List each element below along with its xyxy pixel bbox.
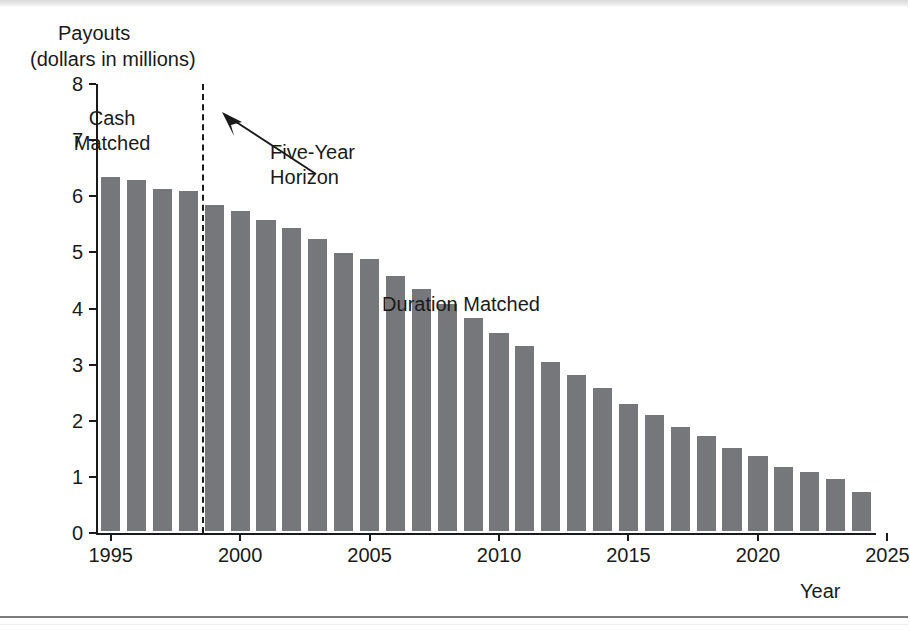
chart-title-line2: (dollars in millions) <box>30 46 196 72</box>
bar <box>748 456 767 531</box>
bar <box>697 436 716 531</box>
x-tick-mark <box>498 533 500 541</box>
bar <box>645 415 664 531</box>
x-tick-mark <box>886 533 888 541</box>
bar <box>334 253 353 531</box>
bar <box>308 239 327 531</box>
bar <box>412 289 431 531</box>
x-tick-mark <box>757 533 759 541</box>
y-tick-mark <box>89 308 96 310</box>
bar <box>774 467 793 531</box>
y-tick-mark <box>89 195 96 197</box>
bar <box>464 318 483 531</box>
plot-area: 012345678 1995200020052010201520202025 C… <box>96 84 876 533</box>
x-tick-label: 2000 <box>218 544 263 567</box>
region-label-cash-line1: Cash <box>89 107 136 129</box>
x-tick-mark <box>369 533 371 541</box>
y-tick-mark <box>89 83 96 85</box>
region-label-duration-matched: Duration Matched <box>382 292 540 317</box>
bar <box>153 189 172 531</box>
x-tick-label: 1995 <box>88 544 133 567</box>
bar <box>826 479 845 531</box>
x-axis-line <box>96 533 876 535</box>
bar <box>800 472 819 531</box>
bar <box>619 404 638 531</box>
chart-title-line1: Payouts <box>30 20 196 46</box>
bar <box>256 220 275 531</box>
scan-artifact-top <box>0 0 908 7</box>
bar <box>541 362 560 531</box>
x-tick-label: 2015 <box>606 544 651 567</box>
page-divider-secondary <box>0 624 908 625</box>
bar <box>593 388 612 531</box>
x-tick-label: 2010 <box>477 544 522 567</box>
bar <box>101 177 120 531</box>
bar <box>852 492 871 531</box>
bar <box>722 448 741 531</box>
x-axis-title: Year <box>800 580 840 603</box>
y-tick-mark <box>89 420 96 422</box>
bar <box>489 333 508 531</box>
bar <box>205 205 224 531</box>
x-tick-label: 2020 <box>736 544 781 567</box>
page-divider <box>0 616 908 618</box>
bar <box>360 259 379 531</box>
y-tick-mark <box>89 251 96 253</box>
bar <box>438 304 457 531</box>
y-tick-mark <box>89 532 96 534</box>
x-tick-mark <box>627 533 629 541</box>
callout-arrow-icon <box>204 102 324 182</box>
x-tick-mark <box>110 533 112 541</box>
bar <box>231 211 250 531</box>
bar <box>567 375 586 531</box>
x-tick-label: 2025 <box>865 544 910 567</box>
chart-title: Payouts (dollars in millions) <box>30 20 196 72</box>
bar <box>127 180 146 531</box>
bar <box>179 191 198 531</box>
bar <box>282 228 301 531</box>
region-label-cash-matched: Cash Matched <box>42 106 182 156</box>
bar <box>671 427 690 531</box>
x-tick-label: 2005 <box>347 544 392 567</box>
x-tick-mark <box>239 533 241 541</box>
region-label-cash-line2: Matched <box>74 132 151 154</box>
bar <box>515 346 534 531</box>
y-tick-mark <box>89 364 96 366</box>
y-tick-mark <box>89 476 96 478</box>
